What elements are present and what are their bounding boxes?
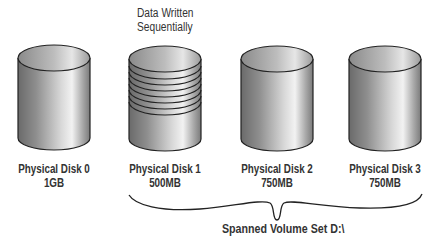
disk-size: 1GB (13, 176, 95, 190)
spanned-volume-label: Spanned Volume Set D:\ (222, 221, 344, 236)
disk-label-2: Physical Disk 2 750MB (236, 162, 318, 190)
span-brace (129, 194, 422, 220)
disk-label-3: Physical Disk 3 750MB (344, 162, 426, 190)
disk-label-1: Physical Disk 1 500MB (124, 162, 206, 190)
note-line-2: Sequentially (137, 20, 193, 34)
disk-name: Physical Disk 2 (236, 162, 318, 176)
cylinder-disk-1 (129, 46, 201, 151)
disk-size: 500MB (124, 176, 206, 190)
disk-name: Physical Disk 0 (13, 162, 95, 176)
disk-name: Physical Disk 3 (344, 162, 426, 176)
sequential-write-note: Data Written Sequentially (137, 6, 193, 34)
spanned-volume-diagram: Data Written Sequentially Physical Disk … (0, 0, 440, 243)
cylinder-disk-3 (349, 46, 421, 151)
cylinder-disk-0 (18, 45, 90, 150)
disk-size: 750MB (344, 176, 426, 190)
note-line-1: Data Written (137, 6, 193, 20)
diagram-canvas (0, 0, 440, 243)
disk-size: 750MB (236, 176, 318, 190)
cylinder-disk-2 (241, 46, 313, 151)
disk-name: Physical Disk 1 (124, 162, 206, 176)
disk-label-0: Physical Disk 0 1GB (13, 162, 95, 190)
